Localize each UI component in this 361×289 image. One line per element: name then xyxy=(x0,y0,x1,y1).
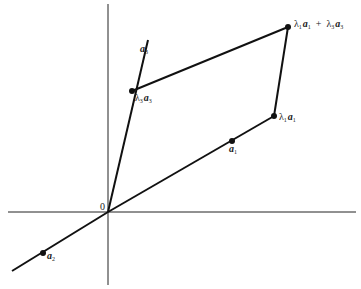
a2-line xyxy=(12,212,108,271)
point-a2 xyxy=(40,250,46,256)
vector-diagram: 0 a3 λ3a3 λ1a1 a1 a2 λ1a1+λ3a3 xyxy=(0,0,361,289)
parallelogram-right-side xyxy=(274,27,288,116)
label-sum: λ1a1+λ3a3 xyxy=(294,18,343,30)
parallelogram-top-side xyxy=(132,27,288,91)
label-lambda1-a1: λ1a1 xyxy=(279,111,296,123)
label-a2: a2 xyxy=(47,250,55,262)
origin-label: 0 xyxy=(100,201,105,212)
a1-line xyxy=(108,116,274,212)
label-a1: a1 xyxy=(229,143,237,155)
point-lambda1-a1 xyxy=(271,113,277,119)
label-lambda3-a3: λ3a3 xyxy=(135,92,152,104)
point-sum xyxy=(285,24,291,30)
a3-line xyxy=(108,40,148,212)
